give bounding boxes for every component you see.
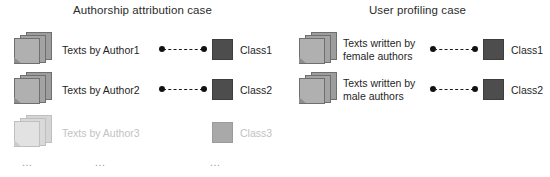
class-label: Class2 xyxy=(240,84,272,96)
class-color-swatch xyxy=(483,79,504,100)
ellipsis-label-column: ... xyxy=(95,156,106,168)
diagram-row: Texts written by male authors Class2 xyxy=(285,70,550,114)
dashed-connector xyxy=(430,84,478,96)
class-label: Class3 xyxy=(240,127,272,139)
dashed-connector xyxy=(159,44,207,56)
class-color-swatch xyxy=(212,122,233,143)
document-sheet-front xyxy=(14,78,40,104)
row-label: Texts written by female authors xyxy=(343,37,415,62)
connector-line xyxy=(163,89,203,90)
document-stack-icon xyxy=(14,72,56,110)
panel-user-profiling: User profiling case Texts written by fem… xyxy=(285,0,550,177)
connector-line xyxy=(163,49,203,50)
document-sheet-front xyxy=(299,78,325,104)
document-sheet-front xyxy=(14,121,40,147)
dashed-connector xyxy=(159,84,207,96)
class-color-swatch xyxy=(212,79,233,100)
document-sheet-front xyxy=(299,38,325,64)
class-label: Class1 xyxy=(511,44,543,56)
document-stack-icon xyxy=(299,32,341,70)
class-label: Class2 xyxy=(511,84,543,96)
document-stack-icon xyxy=(299,72,341,110)
diagram-row: Texts written by female authors Class1 xyxy=(285,30,550,74)
ellipsis-class-column: ... xyxy=(210,156,221,168)
connector-dot-right xyxy=(201,46,207,52)
row-label: Texts written by male authors xyxy=(343,77,415,102)
class-color-swatch xyxy=(212,39,233,60)
connector-dot-right xyxy=(472,86,478,92)
panel-title-authorship: Authorship attribution case xyxy=(0,4,285,16)
row-label: Texts by Author1 xyxy=(62,44,140,57)
row-label: Texts by Author2 xyxy=(62,84,140,97)
panel-authorship-attribution: Authorship attribution case Texts by Aut… xyxy=(0,0,285,177)
class-label: Class1 xyxy=(240,44,272,56)
document-stack-icon xyxy=(14,115,56,153)
diagram-row-faded: Texts by Author3 Class3 xyxy=(0,113,285,157)
panel-title-profiling: User profiling case xyxy=(285,4,550,16)
connector-line xyxy=(434,49,474,50)
diagram-row: Texts by Author1 Class1 xyxy=(0,30,285,74)
connector-dot-right xyxy=(201,86,207,92)
diagram-row: Texts by Author2 Class2 xyxy=(0,70,285,114)
ellipsis-icon-column: ... xyxy=(22,156,33,168)
class-color-swatch xyxy=(483,39,504,60)
document-sheet-front xyxy=(14,38,40,64)
document-stack-icon xyxy=(14,32,56,70)
connector-line xyxy=(434,89,474,90)
dashed-connector xyxy=(430,44,478,56)
connector-dot-right xyxy=(472,46,478,52)
row-label: Texts by Author3 xyxy=(62,127,140,140)
